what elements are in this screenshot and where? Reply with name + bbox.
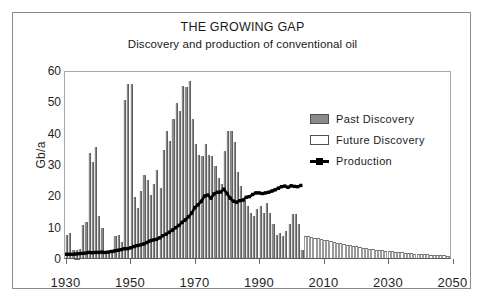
production-marker: [68, 253, 71, 256]
production-marker: [222, 187, 225, 190]
production-marker: [206, 193, 209, 196]
production-marker: [129, 246, 132, 249]
production-marker: [177, 224, 180, 227]
production-marker: [251, 193, 254, 196]
production-marker: [97, 251, 100, 254]
y-axis-tick-labels: 6050403020100: [29, 13, 61, 306]
chart-legend: Past Discovery Future Discovery Producti…: [310, 110, 445, 173]
production-marker: [168, 231, 171, 234]
production-marker: [187, 215, 190, 218]
production-marker: [196, 203, 199, 206]
production-marker: [286, 186, 289, 189]
y-axis-tick: 20: [31, 190, 61, 202]
chart-figure: THE GROWING GAP Discovery and production…: [0, 0, 487, 306]
x-axis-tick-mark: [66, 259, 67, 264]
production-marker: [296, 185, 299, 188]
chart-subtitle: Discovery and production of conventional…: [13, 36, 472, 52]
production-marker: [216, 191, 219, 194]
production-marker: [158, 236, 161, 239]
production-marker: [91, 251, 94, 254]
x-axis-tick: 2010: [299, 275, 349, 290]
production-marker: [184, 218, 187, 221]
figure-border: THE GROWING GAP Discovery and production…: [12, 12, 471, 289]
production-marker: [135, 244, 138, 247]
production-marker: [113, 249, 116, 252]
legend-label: Production: [336, 155, 392, 167]
production-marker: [229, 196, 232, 199]
y-axis-tick-mark: [74, 259, 80, 260]
production-marker: [84, 251, 87, 254]
x-axis-tick: 1970: [170, 275, 220, 290]
production-marker: [164, 232, 167, 235]
production-marker: [132, 245, 135, 248]
production-marker: [139, 243, 142, 246]
page-title: THE GROWING GAP: [13, 19, 472, 35]
legend-label: Past Discovery: [336, 113, 414, 125]
legend-label: Future Discovery: [336, 134, 425, 146]
y-axis-tick: 40: [31, 128, 61, 140]
production-marker: [65, 253, 68, 256]
x-axis-tick: 1950: [105, 275, 155, 290]
legend-item-past-discovery: Past Discovery: [310, 110, 445, 128]
production-marker: [264, 191, 267, 194]
future-discovery-swatch-icon: [310, 135, 329, 145]
production-marker: [203, 194, 206, 197]
legend-item-future-discovery: Future Discovery: [310, 131, 445, 149]
production-marker: [193, 206, 196, 209]
production-marker: [100, 250, 103, 253]
production-marker: [254, 191, 257, 194]
title-block: THE GROWING GAP Discovery and production…: [13, 19, 472, 52]
production-marker: [209, 196, 212, 199]
x-axis-tick-mark: [195, 259, 196, 264]
production-marker: [171, 228, 174, 231]
production-marker: [148, 239, 151, 242]
production-marker: [78, 252, 81, 255]
x-axis-tick-mark: [259, 259, 260, 264]
x-axis-tick: 1930: [41, 275, 91, 290]
production-marker: [225, 192, 228, 195]
x-axis-tick-mark: [324, 259, 325, 264]
production-marker: [245, 196, 248, 199]
y-axis-tick: 0: [31, 253, 61, 265]
production-marker: [81, 252, 84, 255]
production-marker: [116, 249, 119, 252]
production-marker: [152, 238, 155, 241]
production-marker: [270, 189, 273, 192]
production-marker: [107, 250, 110, 253]
x-axis-tick-mark: [388, 259, 389, 264]
production-marker: [161, 234, 164, 237]
production-line-marker-icon: [310, 156, 329, 166]
production-marker: [232, 200, 235, 203]
x-axis-tick: 2050: [428, 275, 478, 290]
production-marker: [293, 185, 296, 188]
production-marker: [145, 241, 148, 244]
production-marker: [257, 191, 260, 194]
y-axis-tick: 60: [31, 65, 61, 77]
y-axis-tick: 50: [31, 96, 61, 108]
production-marker: [94, 251, 97, 254]
production-marker: [155, 238, 158, 241]
x-axis-tick: 2030: [363, 275, 413, 290]
production-marker: [180, 221, 183, 224]
past-discovery-swatch-icon: [310, 114, 329, 124]
production-marker: [289, 184, 292, 187]
production-marker: [190, 211, 193, 214]
production-marker: [119, 248, 122, 251]
production-marker: [299, 184, 302, 187]
production-marker: [110, 250, 113, 253]
x-axis-tick-mark: [453, 259, 454, 264]
production-marker: [219, 190, 222, 193]
production-marker: [87, 251, 90, 254]
production-marker: [241, 198, 244, 201]
production-marker: [200, 200, 203, 203]
production-marker: [261, 192, 264, 195]
production-marker: [248, 195, 251, 198]
production-marker: [126, 247, 129, 250]
production-marker: [238, 199, 241, 202]
y-axis-tick: 10: [31, 222, 61, 234]
production-marker: [123, 247, 126, 250]
production-marker: [277, 187, 280, 190]
production-marker: [212, 192, 215, 195]
production-marker: [174, 226, 177, 229]
production-marker: [71, 253, 74, 256]
